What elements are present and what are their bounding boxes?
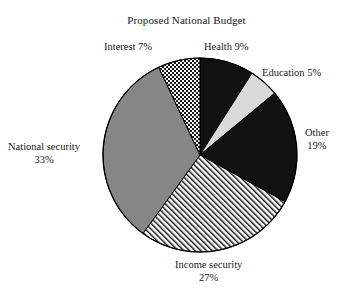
slice-label-interest: Interest 7% <box>104 40 152 53</box>
slice-label-health: Health 9% <box>204 40 249 53</box>
slice-label-other-value: 19% <box>305 139 329 152</box>
slice-label-national-security: National security 33% <box>8 140 80 166</box>
slice-label-national-security-name: National security <box>8 140 80 153</box>
pie-slices <box>103 58 297 252</box>
slice-label-national-security-value: 33% <box>8 153 80 166</box>
slice-label-education-text: Education 5% <box>262 67 321 78</box>
slice-label-other-name: Other <box>305 126 329 139</box>
slice-label-income-security-value: 27% <box>175 271 242 284</box>
slice-label-health-text: Health 9% <box>204 41 249 52</box>
slice-label-interest-text: Interest 7% <box>104 41 152 52</box>
slice-label-education: Education 5% <box>262 66 321 79</box>
slice-label-income-security: Income security 27% <box>175 258 242 284</box>
slice-label-other: Other 19% <box>305 126 329 152</box>
slice-label-income-security-name: Income security <box>175 258 242 271</box>
pie-chart-figure: Proposed National Budget Health 9% <box>0 0 357 298</box>
